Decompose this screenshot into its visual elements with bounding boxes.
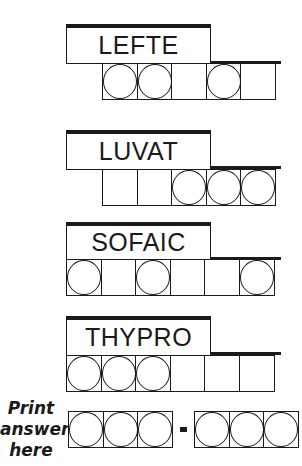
letter-cells [66,355,275,392]
circled-letter-cell[interactable] [135,355,171,392]
circle-marker-icon [136,260,170,295]
circle-marker-icon [138,412,172,447]
circle-marker-icon [136,356,170,391]
letter-cells [102,63,276,100]
circle-marker-icon [138,64,172,99]
circled-letter-cell[interactable] [239,259,275,296]
circle-marker-icon [207,170,241,205]
label-line: here [0,440,62,461]
answer-group-2 [194,411,299,448]
letter-cell[interactable] [239,355,275,392]
letter-cell[interactable] [170,259,206,296]
letter-cell[interactable] [101,259,137,296]
letter-cell[interactable] [204,355,240,392]
circled-letter-cell[interactable] [66,355,102,392]
letter-cell[interactable] [102,169,138,206]
answer-letter-cell[interactable] [103,411,139,448]
letter-cells [102,169,276,206]
circle-marker-icon [264,412,298,447]
letter-cell[interactable] [240,63,276,100]
scrambled-word: LUVAT [99,137,178,166]
circle-marker-icon [172,170,206,205]
circled-letter-cell[interactable] [206,169,242,206]
letter-cell[interactable] [204,259,240,296]
answer-letter-cell[interactable] [194,411,230,448]
circled-letter-cell[interactable] [206,63,242,100]
letter-cell[interactable] [171,63,207,100]
scrambled-word-box: LUVAT [66,130,211,170]
circle-marker-icon [104,412,138,447]
answer-letter-cell[interactable] [263,411,299,448]
answer-letter-cell[interactable] [229,411,265,448]
circled-letter-cell[interactable] [240,169,276,206]
letter-cell[interactable] [137,169,173,206]
circled-letter-cell[interactable] [102,63,138,100]
scrambled-word-box: LEFTE [66,24,211,64]
circled-letter-cell[interactable] [137,63,173,100]
circle-marker-icon [195,412,229,447]
circle-marker-icon [240,260,274,295]
circle-marker-icon [230,412,264,447]
scrambled-word-box: THYPRO [66,316,211,356]
answer-group-1 [68,411,173,448]
label-line: Print [0,398,62,419]
scrambled-word: LEFTE [98,31,178,60]
circled-letter-cell[interactable] [171,169,207,206]
circle-marker-icon [103,64,137,99]
answer-letter-cell[interactable] [68,411,104,448]
circle-marker-icon [207,64,241,99]
scrambled-word: THYPRO [85,323,192,352]
circled-letter-cell[interactable] [101,355,137,392]
circle-marker-icon [102,356,136,391]
scrambled-word-box: SOFAIC [66,222,211,260]
circle-marker-icon [69,412,103,447]
answer-separator-dash [180,427,187,432]
label-line: answer [0,419,62,440]
circled-letter-cell[interactable] [66,259,102,296]
circle-marker-icon [67,356,101,391]
answer-letter-cell[interactable] [137,411,173,448]
circled-letter-cell[interactable] [135,259,171,296]
circle-marker-icon [67,260,101,295]
circle-marker-icon [241,170,275,205]
letter-cell[interactable] [170,355,206,392]
print-answer-label: Print answer here [0,398,62,461]
letter-cells [66,259,275,296]
scrambled-word: SOFAIC [91,228,186,257]
